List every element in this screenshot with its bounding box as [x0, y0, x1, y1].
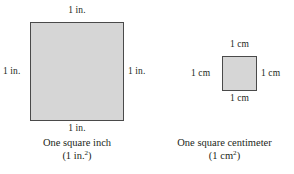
- square-inch-left-label: 1 in.: [3, 66, 20, 77]
- square-centimeter-shape: [222, 56, 257, 91]
- square-centimeter-caption-prefix: (1 cm: [209, 150, 233, 161]
- square-centimeter-caption-suffix: ): [237, 150, 241, 161]
- square-centimeter-caption-line2: (1 cm2): [155, 149, 294, 162]
- square-inch-top-label: 1 in.: [0, 5, 154, 16]
- square-centimeter-left-label: 1 cm: [191, 68, 210, 79]
- square-inch-bottom-label: 1 in.: [0, 123, 154, 134]
- square-centimeter-right-label: 1 cm: [261, 68, 280, 79]
- square-centimeter-caption: One square centimeter (1 cm2): [155, 136, 294, 162]
- square-centimeter-bottom-label: 1 cm: [205, 93, 274, 104]
- square-centimeter-top-label: 1 cm: [205, 39, 274, 50]
- square-inch-caption-suffix: ): [88, 150, 92, 161]
- square-inch-right-label: 1 in.: [128, 66, 145, 77]
- square-inch-shape: [30, 22, 124, 121]
- square-inch-caption-line1: One square inch: [0, 136, 154, 149]
- square-centimeter-caption-line1: One square centimeter: [155, 136, 294, 149]
- square-inch-caption-line2: (1 in.2): [0, 149, 154, 162]
- square-inch-caption-prefix: (1 in.: [62, 150, 84, 161]
- square-inch-caption: One square inch (1 in.2): [0, 136, 154, 162]
